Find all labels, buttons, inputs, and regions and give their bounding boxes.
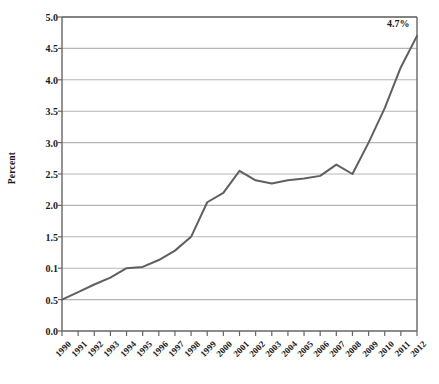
line-chart: Percent 0.00.50.11.52.02.53.03.54.04.55.… — [0, 0, 439, 384]
data-point-annotation: 4.7% — [387, 18, 410, 29]
x-axis-tick-labels: 1990199119921993199419951996199719981999… — [0, 0, 439, 384]
